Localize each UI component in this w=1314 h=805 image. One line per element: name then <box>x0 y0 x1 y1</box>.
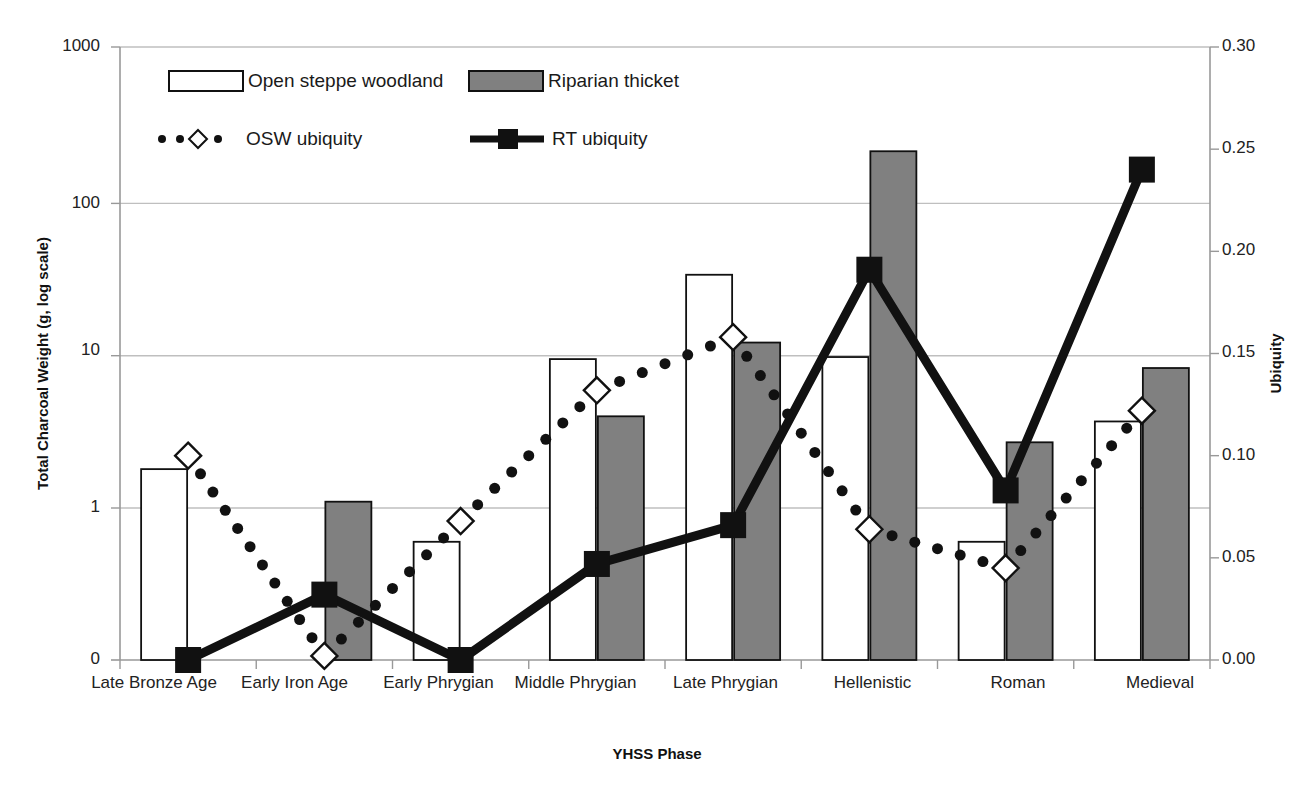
line-osw-ubiquity-dot <box>306 632 317 643</box>
line-osw-ubiquity-dot <box>472 499 483 510</box>
line-osw-ubiquity-dot <box>1076 475 1087 486</box>
marker-rt-ubiquity-4 <box>720 512 746 538</box>
line-osw-ubiquity-dot <box>932 543 943 554</box>
plot-area <box>0 0 1314 805</box>
line-osw-ubiquity-dot <box>282 596 293 607</box>
line-osw-ubiquity-dot <box>207 487 218 498</box>
line-osw-ubiquity-dot <box>837 485 848 496</box>
line-osw-ubiquity-dot <box>741 351 752 362</box>
line-osw-ubiquity-dot <box>660 358 671 369</box>
line-osw-ubiquity-dot <box>220 505 231 516</box>
marker-rt-ubiquity-1 <box>311 582 337 608</box>
line-osw-ubiquity-dot <box>769 389 780 400</box>
marker-rt-ubiquity-2 <box>448 647 474 673</box>
line-osw-ubiquity-dot <box>887 530 898 541</box>
marker-osw-ubiquity-0 <box>175 443 201 469</box>
line-osw-ubiquity-dot <box>404 566 415 577</box>
line-osw-ubiquity-dot <box>1046 510 1057 521</box>
line-osw-ubiquity-dot <box>421 549 432 560</box>
bar-open-steppe-woodland-0 <box>141 469 187 660</box>
line-osw-ubiquity-dot <box>1061 493 1072 504</box>
line-osw-ubiquity-dot <box>809 447 820 458</box>
bar-open-steppe-woodland-7 <box>1095 421 1141 660</box>
line-osw-ubiquity-dot <box>755 370 766 381</box>
line-osw-ubiquity-dot <box>257 559 268 570</box>
line-osw-ubiquity-dot <box>245 541 256 552</box>
line-osw-ubiquity-dot <box>614 376 625 387</box>
line-osw-ubiquity-dot <box>796 428 807 439</box>
bar-open-steppe-woodland-3 <box>550 359 596 660</box>
line-osw-ubiquity-dot <box>1030 528 1041 539</box>
bar-riparian-thicket-3 <box>598 416 644 660</box>
line-osw-ubiquity-dot <box>540 434 551 445</box>
line-osw-ubiquity-dot <box>637 367 648 378</box>
line-osw-ubiquity-dot <box>370 600 381 611</box>
line-osw-ubiquity-dot <box>823 466 834 477</box>
line-osw-ubiquity-dot <box>294 614 305 625</box>
line-osw-ubiquity-dot <box>955 550 966 561</box>
line-osw-ubiquity-dot <box>489 483 500 494</box>
line-osw-ubiquity-dot <box>232 523 243 534</box>
line-osw-ubiquity-dot <box>977 556 988 567</box>
line-osw-ubiquity-dot <box>387 583 398 594</box>
line-osw-ubiquity-dot <box>705 341 716 352</box>
line-osw-ubiquity-dot <box>682 349 693 360</box>
line-osw-ubiquity-dot <box>353 617 364 628</box>
line-osw-ubiquity-dot <box>506 467 517 478</box>
line-osw-ubiquity-dot <box>195 468 206 479</box>
chart-figure: Total Charcoal Weight (g, log scale) Ubi… <box>0 0 1314 805</box>
marker-rt-ubiquity-3 <box>584 551 610 577</box>
line-osw-ubiquity-dot <box>1015 545 1026 556</box>
line-osw-ubiquity-dot <box>1121 423 1132 434</box>
line-osw-ubiquity-dot <box>438 532 449 543</box>
line-osw-ubiquity-dot <box>557 417 568 428</box>
marker-osw-ubiquity-2 <box>448 508 474 534</box>
line-osw-ubiquity-dot <box>782 408 793 419</box>
bar-open-steppe-woodland-5 <box>822 357 868 660</box>
marker-rt-ubiquity-0 <box>175 647 201 673</box>
bar-riparian-thicket-1 <box>325 502 371 660</box>
line-osw-ubiquity-dot <box>574 401 585 412</box>
line-osw-ubiquity-dot <box>1106 440 1117 451</box>
bar-riparian-thicket-5 <box>870 151 916 660</box>
line-osw-ubiquity-dot <box>850 505 861 516</box>
line-osw-ubiquity-dot <box>909 537 920 548</box>
line-osw-ubiquity-dot <box>1091 458 1102 469</box>
marker-rt-ubiquity-6 <box>993 477 1019 503</box>
line-osw-ubiquity-dot <box>523 450 534 461</box>
line-osw-ubiquity-dot <box>269 578 280 589</box>
marker-rt-ubiquity-5 <box>856 257 882 283</box>
line-osw-ubiquity-dot <box>336 634 347 645</box>
marker-rt-ubiquity-7 <box>1129 157 1155 183</box>
